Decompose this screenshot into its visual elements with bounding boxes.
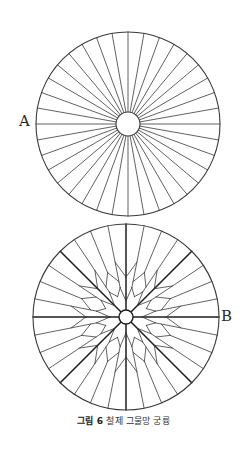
label-b: B (221, 309, 232, 324)
caption-text: 철제 그물망 궁륭 (106, 416, 170, 426)
vault-diagrams (0, 0, 247, 458)
label-a: A (19, 114, 30, 129)
diagram-b-star-net-vault (33, 224, 219, 410)
figure: A B 그림 6 철제 그물망 궁륭 (0, 0, 247, 458)
diagram-a-radial-vault (36, 32, 220, 216)
caption-number: 그림 6 (77, 416, 103, 426)
figure-caption: 그림 6 철제 그물망 궁륭 (0, 414, 247, 427)
